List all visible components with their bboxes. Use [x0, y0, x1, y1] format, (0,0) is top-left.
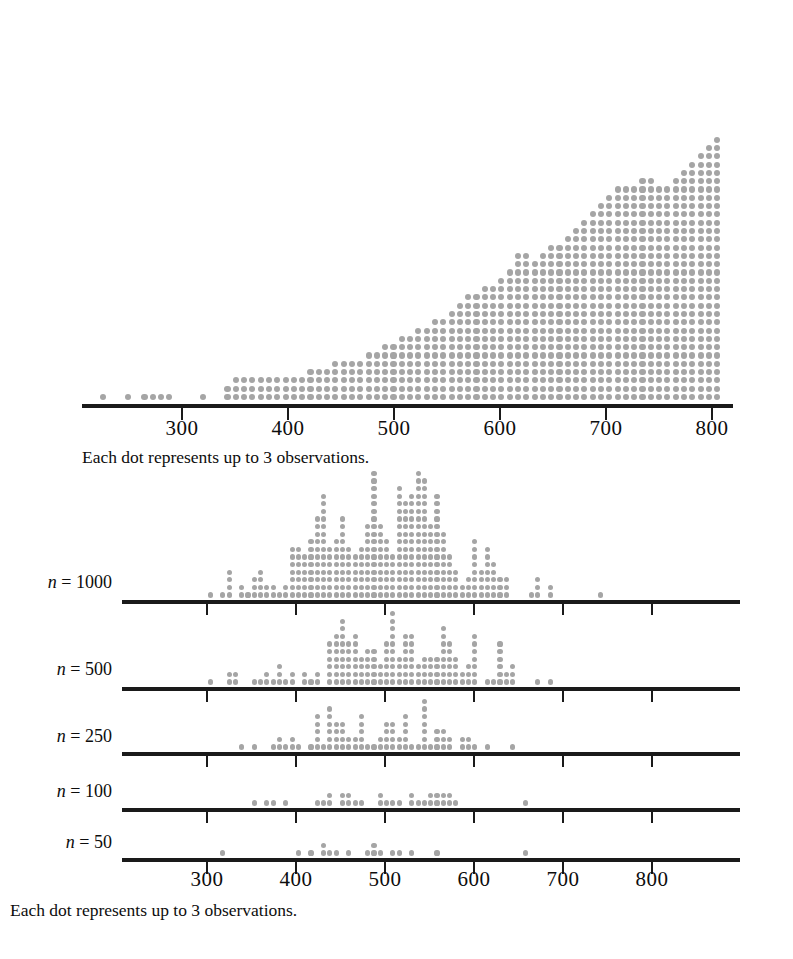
dot-mark [606, 220, 612, 226]
dot-mark [384, 554, 389, 559]
dot-mark [208, 592, 213, 597]
dot-mark [515, 311, 521, 317]
dot-mark [631, 228, 637, 234]
dot-mark [664, 220, 670, 226]
dot-mark [490, 344, 496, 350]
dot-mark [453, 679, 458, 684]
dot-mark [639, 352, 645, 358]
dot-mark [504, 577, 509, 582]
dot-mark [397, 737, 402, 742]
top-axis-tick-label: 500 [354, 418, 434, 439]
dot-mark [465, 352, 471, 358]
bottom-axis-tick [384, 756, 386, 767]
dot-mark [321, 744, 326, 749]
dot-mark [664, 286, 670, 292]
dot-mark [321, 577, 326, 582]
dot-mark [384, 539, 389, 544]
dot-mark [371, 679, 376, 684]
dot-mark [698, 162, 704, 168]
dot-mark [623, 278, 629, 284]
dot-mark [673, 386, 679, 392]
dot-mark [434, 793, 439, 798]
dot-mark [327, 547, 332, 552]
dot-mark [540, 311, 546, 317]
dot-mark [274, 394, 280, 400]
dot-mark [598, 286, 604, 292]
dot-mark [290, 562, 295, 567]
dot-mark [472, 744, 477, 749]
dot-mark [714, 361, 720, 367]
dot-mark [623, 311, 629, 317]
dot-mark [698, 286, 704, 292]
dot-mark [623, 203, 629, 209]
dot-mark [384, 547, 389, 552]
dot-mark [606, 245, 612, 251]
dot-mark [441, 672, 446, 677]
dot-mark [296, 577, 301, 582]
dot-mark [615, 253, 621, 259]
dot-mark [556, 369, 562, 375]
dot-mark [432, 377, 438, 383]
dot-mark [507, 328, 513, 334]
dot-mark [315, 714, 320, 719]
dot-mark [447, 793, 452, 798]
dot-mark [648, 220, 654, 226]
dot-mark [648, 319, 654, 325]
dot-mark [540, 286, 546, 292]
dot-mark [598, 336, 604, 342]
dot-mark [515, 269, 521, 275]
dot-mark [510, 679, 515, 684]
dot-mark [673, 186, 679, 192]
dot-mark [681, 253, 687, 259]
dot-mark [409, 672, 414, 677]
dot-mark [403, 554, 408, 559]
dot-mark [316, 394, 322, 400]
dot-mark [698, 253, 704, 259]
dot-mark [415, 369, 421, 375]
dot-mark [409, 501, 414, 506]
dot-mark [473, 386, 479, 392]
sample-size-label-100: n = 100 [0, 781, 112, 801]
dot-mark [664, 278, 670, 284]
dot-mark [590, 278, 596, 284]
dot-mark [615, 245, 621, 251]
dot-mark [416, 664, 421, 669]
dot-mark [623, 245, 629, 251]
dot-mark [334, 554, 339, 559]
sample-size-symbol: n [66, 832, 75, 852]
dot-mark [656, 386, 662, 392]
dot-mark [290, 679, 295, 684]
dot-mark [359, 547, 364, 552]
dot-mark [384, 672, 389, 677]
dot-mark [615, 394, 621, 400]
dot-mark [397, 501, 402, 506]
dot-mark [648, 228, 654, 234]
dot-mark [332, 361, 338, 367]
dot-mark [453, 592, 458, 597]
dot-mark [390, 744, 395, 749]
dot-mark [371, 486, 376, 491]
dot-mark [507, 394, 513, 400]
dot-mark [615, 294, 621, 300]
dot-mark [498, 336, 504, 342]
dot-mark [714, 294, 720, 300]
dot-mark [409, 562, 414, 567]
dot-mark [473, 319, 479, 325]
dot-mark [321, 524, 326, 529]
dot-mark [283, 394, 289, 400]
dot-mark [673, 253, 679, 259]
dot-mark [664, 203, 670, 209]
dot-mark [252, 679, 257, 684]
bottom-axis-tick-label: 400 [256, 869, 336, 890]
dot-mark [556, 261, 562, 267]
dot-mark [673, 211, 679, 217]
dot-mark [648, 352, 654, 358]
bottom-axis-tick [562, 604, 564, 615]
dot-mark [507, 311, 513, 317]
dot-mark [689, 236, 695, 242]
dot-mark [258, 577, 263, 582]
dot-mark [532, 394, 538, 400]
dot-mark [407, 344, 413, 350]
dot-mark [407, 369, 413, 375]
dot-mark [540, 303, 546, 309]
